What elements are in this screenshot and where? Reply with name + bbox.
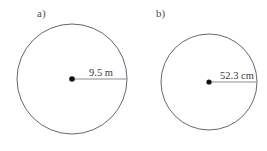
- circle-b-dimension-label: 52.3 cm: [220, 71, 254, 82]
- circle-a-center-dot: [69, 76, 75, 82]
- part-label-a: a): [37, 8, 46, 19]
- part-label-b: b): [156, 8, 165, 19]
- circle-b-center-dot: [206, 79, 211, 84]
- figure-canvas: a) b) 9.5 m 52.3 cm: [0, 0, 267, 151]
- circle-a-dimension-label: 9.5 m: [89, 68, 113, 79]
